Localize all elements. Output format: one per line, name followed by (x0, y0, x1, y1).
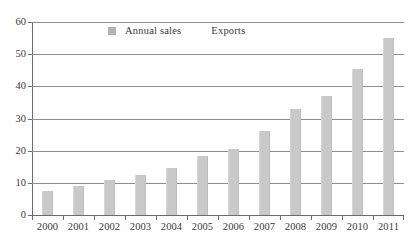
x-tick-label: 2007 (254, 222, 275, 233)
plot-area: 0102030405060 (32, 22, 404, 215)
x-axis-labels: 2000200120022003200420052006200720082009… (32, 222, 404, 238)
x-tick (32, 216, 33, 220)
x-tick-label: 2005 (192, 222, 213, 233)
x-tick-label: 2002 (99, 222, 120, 233)
y-tick-label: 30 (16, 113, 27, 124)
x-tick-label: 2009 (316, 222, 337, 233)
y-tick-label: 20 (16, 145, 27, 156)
bar (197, 156, 208, 216)
bar (321, 96, 332, 215)
x-tick (342, 216, 343, 220)
x-tick (249, 216, 250, 220)
bar (135, 175, 146, 215)
bar (352, 69, 363, 215)
bar (42, 191, 53, 215)
y-tick-label: 40 (16, 81, 27, 92)
x-tick (403, 216, 404, 220)
bar-chart: Annual sales Exports 0102030405060 20002… (0, 0, 414, 248)
y-tick-label: 0 (21, 210, 26, 221)
x-tick (63, 216, 64, 220)
x-tick (373, 216, 374, 220)
bar (290, 109, 301, 215)
bar-series-annual-sales (32, 22, 404, 215)
x-tick-label: 2003 (130, 222, 151, 233)
bar (73, 186, 84, 215)
x-tick (280, 216, 281, 220)
bar (383, 38, 394, 215)
x-tick-label: 2000 (37, 222, 58, 233)
x-tick (218, 216, 219, 220)
x-tick (125, 216, 126, 220)
x-tick (94, 216, 95, 220)
bar (166, 168, 177, 215)
bar (259, 131, 270, 215)
x-tick-label: 2008 (285, 222, 306, 233)
x-tick (311, 216, 312, 220)
y-tick-label: 10 (16, 178, 27, 189)
y-tick-label: 50 (16, 49, 27, 60)
x-tick (187, 216, 188, 220)
y-tick-label: 60 (16, 17, 27, 28)
x-tick-label: 2006 (223, 222, 244, 233)
bar (228, 149, 239, 215)
x-tick-label: 2004 (161, 222, 182, 233)
x-tick-label: 2010 (347, 222, 368, 233)
x-tick-label: 2001 (68, 222, 89, 233)
bar (104, 180, 115, 215)
x-tick-label: 2011 (378, 222, 399, 233)
x-tick (156, 216, 157, 220)
